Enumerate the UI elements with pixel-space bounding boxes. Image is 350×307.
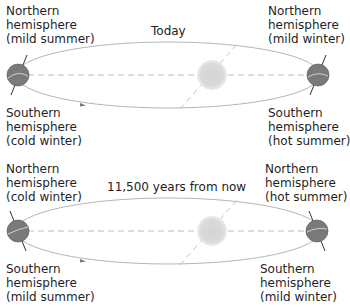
earth-icon — [7, 211, 29, 251]
panel-title-future: 11,500 years from now — [107, 180, 246, 194]
earth-icon — [307, 55, 329, 95]
sun-icon — [197, 60, 227, 90]
label-left-south: Southern hemisphere (mild summer) — [6, 262, 95, 304]
sun-icon — [197, 216, 227, 246]
earth-icon — [7, 55, 29, 95]
panel-title-today: Today — [151, 24, 186, 38]
label-left-north: Northern hemisphere (cold winter) — [6, 162, 82, 204]
label-left-south: Southern hemisphere (cold winter) — [6, 106, 82, 148]
label-right-north: Northern hemisphere (mild winter) — [268, 4, 345, 46]
earth-icon — [306, 211, 328, 251]
panel-today — [7, 42, 329, 109]
label-right-north: Northern hemisphere (hot summer) — [265, 162, 347, 204]
panel-future — [7, 198, 328, 265]
label-right-south: Southern hemisphere (mild winter) — [260, 262, 337, 304]
label-left-north: Northern hemisphere (mild summer) — [6, 4, 95, 46]
label-right-south: Southern hemisphere (hot summer) — [268, 106, 350, 148]
